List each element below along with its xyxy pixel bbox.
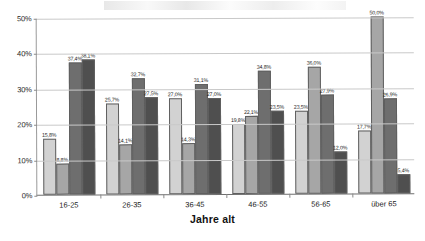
bar[interactable] [307, 66, 320, 193]
bar-item[interactable]: 23,5% [294, 18, 308, 194]
bar-item[interactable]: 12,0% [333, 18, 347, 194]
bar-item[interactable]: 37,4% [68, 19, 82, 195]
bar-item[interactable]: 25,7% [105, 18, 119, 194]
bar[interactable] [207, 98, 220, 194]
bar[interactable] [68, 62, 82, 194]
y-axis-tick-label: 30% [17, 85, 32, 94]
bar-value-label: 5,4% [397, 167, 409, 173]
bar-value-label: 26,9% [383, 91, 397, 97]
y-axis-tick-label: 0% [22, 191, 33, 200]
plot-frame: 15,8%8,8%37,4%38,1%25,7%14,1%32,7%27,5%2… [36, 17, 415, 195]
bar-group: 27,0%14,3%31,1%27,0% [163, 18, 227, 194]
bar-item[interactable]: 32,7% [131, 18, 145, 194]
bar-item[interactable]: 27,9% [320, 18, 334, 194]
bar-item[interactable]: 5,4% [396, 17, 410, 193]
y-axis-tick-label: 10% [17, 156, 32, 165]
x-axis-tick-label: 26-35 [122, 200, 141, 209]
y-axis-tick-mark [34, 90, 37, 91]
bar-group: 23,5%36,0%27,9%12,0% [289, 18, 353, 194]
bar-value-label: 27,0% [207, 91, 221, 97]
bar[interactable] [320, 95, 333, 194]
bar-item[interactable]: 14,1% [118, 18, 132, 194]
bar-value-label: 22,1% [244, 109, 258, 115]
bar-value-label: 50,0% [369, 9, 383, 15]
x-axis-tick-mark [226, 194, 227, 198]
y-axis-tick-mark [34, 160, 37, 161]
bar-item[interactable]: 31,1% [194, 18, 208, 194]
bar[interactable] [182, 144, 195, 195]
bar[interactable] [245, 116, 258, 194]
bar-item[interactable]: 15,8% [42, 19, 56, 195]
bar[interactable] [358, 131, 371, 194]
bar-chart: 15,8%8,8%37,4%38,1%25,7%14,1%32,7%27,5%2… [0, 0, 425, 241]
y-axis-tick-mark [34, 196, 37, 197]
bar[interactable] [370, 16, 384, 193]
bar[interactable] [144, 97, 157, 194]
bar-value-label: 34,8% [257, 64, 271, 70]
bar[interactable] [56, 163, 69, 194]
bar-item[interactable]: 27,5% [144, 18, 158, 194]
bar-item[interactable]: 14,3% [181, 18, 195, 194]
x-axis-tick-label: 36-45 [185, 200, 204, 209]
x-axis-tick-mark [100, 194, 101, 198]
bar-item[interactable]: 8,8% [55, 19, 69, 195]
scan-artifact [104, 1, 346, 10]
bar-value-label: 15,8% [42, 132, 56, 138]
bar-value-label: 14,3% [181, 137, 195, 143]
bar-item[interactable]: 23,5% [270, 18, 284, 194]
bar-value-label: 14,1% [118, 137, 132, 143]
x-axis-title: Jahre alt [0, 213, 425, 225]
bar-item[interactable]: 26,9% [383, 17, 397, 193]
bar-value-label: 25,7% [105, 96, 119, 102]
bar-value-label: 12,0% [333, 144, 347, 150]
bar-group: 19,8%22,1%34,8%23,5% [226, 18, 290, 194]
bar-group: 15,8%8,8%37,4%38,1% [37, 18, 101, 194]
bar-item[interactable]: 38,1% [81, 19, 95, 195]
bar-value-label: 17,7% [357, 124, 371, 130]
x-axis-tick-label: 16-25 [59, 201, 78, 210]
bar-value-label: 36,0% [307, 59, 321, 65]
x-axis-tick-label: über 65 [371, 199, 396, 208]
bar-value-label: 27,5% [144, 90, 158, 96]
bar[interactable] [131, 79, 144, 195]
y-axis-tick-label: 50% [17, 14, 32, 23]
bar-value-label: 19,8% [231, 117, 245, 123]
x-axis-tick-label: 46-55 [248, 200, 267, 209]
bar-item[interactable]: 22,1% [244, 18, 258, 194]
bar-item[interactable]: 50,0% [370, 17, 384, 193]
y-axis-tick-mark [34, 19, 37, 20]
bar-item[interactable]: 36,0% [307, 18, 321, 194]
x-axis-tick-mark [352, 194, 353, 198]
bar-item[interactable]: 17,7% [357, 17, 371, 193]
bar-item[interactable]: 27,0% [207, 18, 221, 194]
y-axis-tick-mark [34, 125, 37, 126]
bar[interactable] [194, 84, 207, 194]
plot-area: 15,8%8,8%37,4%38,1%25,7%14,1%32,7%27,5%2… [37, 17, 415, 194]
y-axis-tick-label: 40% [17, 50, 32, 59]
bar[interactable] [397, 174, 410, 193]
bar-value-label: 27,0% [168, 92, 182, 98]
bar-item[interactable]: 27,0% [168, 18, 182, 194]
x-axis-tick-mark [163, 194, 164, 198]
bar-value-label: 23,5% [270, 104, 284, 110]
bar[interactable] [383, 98, 396, 193]
bar[interactable] [168, 99, 181, 195]
y-axis-tick-label: 20% [17, 120, 32, 129]
bar-group: 25,7%14,1%32,7%27,5% [100, 18, 164, 194]
bar[interactable] [105, 103, 118, 194]
x-axis-tick-label: 56-65 [311, 200, 330, 209]
bar[interactable] [43, 139, 56, 195]
bar[interactable] [119, 144, 132, 194]
y-axis-tick-mark [34, 54, 37, 55]
x-axis-tick-mark [289, 194, 290, 198]
bar[interactable] [81, 60, 95, 195]
bar-item[interactable]: 34,8% [257, 18, 271, 194]
bar-value-label: 23,5% [294, 103, 308, 109]
bar-value-label: 31,1% [194, 77, 208, 83]
bar-group: 17,7%50,0%26,9%5,4% [352, 17, 416, 193]
bar-item[interactable]: 19,8% [231, 18, 245, 194]
bar-value-label: 32,7% [131, 72, 145, 78]
bar[interactable] [334, 151, 347, 194]
